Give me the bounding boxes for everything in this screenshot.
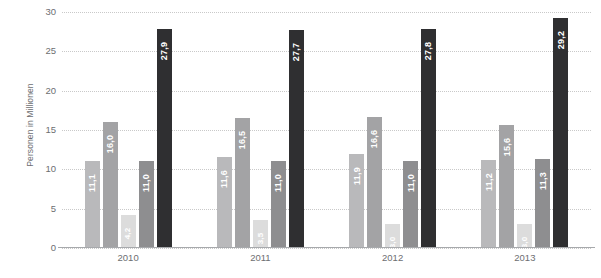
- bar-group: 11,616,53,511,027,7: [194, 12, 326, 248]
- bar[interactable]: 15,6: [499, 125, 514, 248]
- bar[interactable]: 16,0: [103, 122, 118, 248]
- bar[interactable]: 29,2: [553, 18, 568, 248]
- bar[interactable]: 11,2: [481, 160, 496, 248]
- y-axis-title-label: Personen in Millionen: [25, 83, 35, 166]
- x-axis-labels: 2010201120122013: [62, 252, 591, 263]
- bar[interactable]: 11,0: [403, 161, 418, 248]
- x-axis-tick-label: 2012: [327, 252, 459, 263]
- bar-value-label: 29,2: [556, 31, 566, 49]
- bar-groups: 11,116,04,211,027,911,616,53,511,027,711…: [62, 12, 591, 248]
- bar-value-label: 11,3: [538, 172, 548, 190]
- bar[interactable]: 16,6: [367, 117, 382, 248]
- bar-chart: Personen in Millionen 051015202530 11,11…: [0, 0, 601, 278]
- bar[interactable]: 11,0: [271, 161, 286, 248]
- x-axis-baseline: [58, 247, 595, 248]
- bar-value-label: 11,6: [219, 170, 229, 188]
- bar[interactable]: 3,0: [385, 224, 400, 248]
- bar[interactable]: 11,3: [535, 159, 550, 248]
- bar[interactable]: 27,8: [421, 29, 436, 248]
- y-axis-tick-label: 30: [45, 6, 56, 17]
- bar[interactable]: 3,5: [253, 220, 268, 248]
- bar-value-label: 3,5: [256, 233, 265, 245]
- y-axis-tick-label: 20: [45, 85, 56, 96]
- bar-value-label: 27,9: [159, 41, 169, 59]
- bar[interactable]: 27,7: [289, 30, 304, 248]
- bar-value-label: 27,7: [291, 43, 301, 61]
- bar[interactable]: 11,0: [139, 161, 154, 248]
- bar[interactable]: 4,2: [121, 215, 136, 248]
- y-axis-tick-label: 10: [45, 163, 56, 174]
- bar-value-label: 11,0: [273, 175, 283, 193]
- bar-value-label: 16,6: [370, 130, 380, 148]
- y-axis-tick-label: 15: [45, 124, 56, 135]
- bar-value-label: 11,1: [87, 174, 97, 192]
- x-axis-tick-label: 2013: [459, 252, 591, 263]
- x-axis-tick-label: 2011: [194, 252, 326, 263]
- bar-group: 11,215,63,011,329,2: [459, 12, 591, 248]
- bar-value-label: 11,2: [484, 173, 494, 191]
- bar-value-label: 27,8: [424, 42, 434, 60]
- y-axis-tick-label: 5: [51, 203, 56, 214]
- bar-value-label: 15,6: [502, 138, 512, 156]
- bar-group: 11,116,04,211,027,9: [62, 12, 194, 248]
- bar-value-label: 11,0: [141, 175, 151, 193]
- bar[interactable]: 11,6: [217, 157, 232, 248]
- bar-value-label: 11,0: [406, 175, 416, 193]
- bar-group: 11,916,63,011,027,8: [327, 12, 459, 248]
- bar-value-label: 16,5: [237, 131, 247, 149]
- plot-area: 051015202530 11,116,04,211,027,911,616,5…: [62, 12, 591, 248]
- bar-value-label: 16,0: [105, 135, 115, 153]
- bar-value-label: 11,9: [352, 167, 362, 185]
- bar[interactable]: 11,9: [349, 154, 364, 248]
- gridline: 0: [62, 248, 591, 249]
- y-axis-title: Personen in Millionen: [22, 0, 38, 250]
- y-axis-tick-label: 0: [51, 242, 56, 253]
- bar[interactable]: 16,5: [235, 118, 250, 248]
- bar[interactable]: 11,1: [85, 161, 100, 248]
- x-axis-tick-label: 2010: [62, 252, 194, 263]
- bar-value-label: 4,2: [124, 228, 133, 240]
- y-axis-tick-label: 25: [45, 45, 56, 56]
- bar[interactable]: 27,9: [157, 29, 172, 248]
- bar[interactable]: 3,0: [517, 224, 532, 248]
